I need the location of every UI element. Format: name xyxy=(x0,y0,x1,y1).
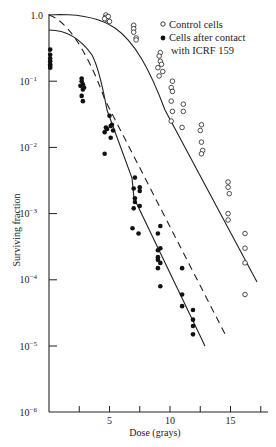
filled-circle-point xyxy=(156,231,161,236)
open-circle-point xyxy=(157,54,162,59)
icrf-fit-line xyxy=(49,30,205,346)
filled-circle-point xyxy=(137,189,142,194)
open-circle-point xyxy=(170,89,175,94)
open-circle-point xyxy=(198,128,203,133)
filled-circle-point xyxy=(191,317,196,322)
filled-circle-point xyxy=(156,248,161,253)
open-circle-point xyxy=(169,119,174,124)
open-circle-point xyxy=(181,102,186,107)
open-circle-point xyxy=(131,30,136,35)
x-axis-title: Dose (grays) xyxy=(129,427,180,439)
open-circle-point xyxy=(243,246,248,251)
y-tick-label: 10−3 xyxy=(20,207,38,219)
x-tick-label: 10 xyxy=(165,415,175,426)
open-circle-point xyxy=(227,191,232,196)
open-circle-point xyxy=(226,180,231,185)
y-tick-label: 10−6 xyxy=(20,406,38,418)
filled-circle-point xyxy=(81,99,86,104)
filled-circle-point xyxy=(158,284,163,289)
filled-circle-point xyxy=(107,114,112,119)
filled-circle-point xyxy=(191,324,196,329)
filled-circle-point xyxy=(137,204,142,209)
y-tick-label: 10−5 xyxy=(20,340,38,352)
filled-circle-point xyxy=(133,200,138,205)
open-circle-point xyxy=(134,38,139,43)
open-circle-point xyxy=(181,109,186,114)
y-tick-label: 10−1 xyxy=(20,75,38,87)
y-tick-label: 10−2 xyxy=(20,141,38,153)
x-tick-label: 15 xyxy=(226,415,236,426)
filled-circle-point xyxy=(131,186,136,191)
open-circle-point xyxy=(243,292,248,297)
reference-dashed-line xyxy=(49,15,225,334)
y-axis-title: Surviving fraction xyxy=(11,193,22,266)
open-circle-point xyxy=(169,99,174,104)
open-circle-point xyxy=(199,122,204,127)
legend-label-icrf: Cells after contact xyxy=(169,32,245,43)
filled-circle-point xyxy=(158,261,163,266)
legend-label-control: Control cells xyxy=(169,19,223,30)
filled-circle-point xyxy=(156,266,161,271)
filled-circle-point xyxy=(102,130,107,135)
filled-circle-point xyxy=(191,308,196,313)
open-circle-point xyxy=(170,109,175,114)
y-tick-label: 10−4 xyxy=(20,273,38,285)
open-circle-point xyxy=(107,19,112,24)
survival-chart: 1.010−110−210−310−410−510−6 51015 Surviv… xyxy=(0,0,276,447)
open-circle-point xyxy=(199,152,204,157)
open-circle-point xyxy=(243,261,248,266)
open-circle-point xyxy=(157,74,162,79)
filled-circle-point xyxy=(180,292,185,297)
filled-circle-point xyxy=(131,206,136,211)
legend-open-circle-icon xyxy=(161,22,165,26)
open-circle-point xyxy=(199,140,204,145)
open-circle-point xyxy=(160,69,165,74)
filled-circle-point xyxy=(180,304,185,309)
filled-circle-point xyxy=(136,231,141,236)
y-tick-label: 1.0 xyxy=(31,10,44,21)
filled-circle-point xyxy=(82,85,87,90)
open-circle-point xyxy=(159,62,164,67)
open-circle-point xyxy=(226,218,231,223)
filled-circle-point xyxy=(158,224,163,229)
open-circle-point xyxy=(243,231,248,236)
open-circle-point xyxy=(226,185,231,190)
filled-circle-point xyxy=(191,332,196,337)
legend: Control cells Cells after contact with I… xyxy=(161,19,246,56)
filled-circle-point xyxy=(111,128,116,133)
legend-label-icrf-line2: with ICRF 159 xyxy=(171,45,234,56)
filled-circle-point xyxy=(48,47,53,52)
open-circle-point xyxy=(180,125,185,130)
filled-circle-point xyxy=(180,266,185,271)
filled-circle-point xyxy=(102,152,107,157)
filled-circle-point xyxy=(108,135,113,140)
filled-circle-point xyxy=(130,226,135,231)
y-ticks: 1.010−110−210−310−410−510−6 xyxy=(20,10,57,418)
filled-circle-point xyxy=(79,94,84,99)
open-circle-point xyxy=(106,14,111,19)
filled-circle-point xyxy=(110,122,115,127)
filled-circle-point xyxy=(133,175,138,180)
fit-curves xyxy=(49,15,257,347)
filled-circle-point xyxy=(48,65,53,70)
x-tick-label: 5 xyxy=(107,415,112,426)
legend-filled-circle-icon xyxy=(161,36,166,41)
open-circle-point xyxy=(226,211,231,216)
open-circle-point xyxy=(170,79,175,84)
x-ticks: 51015 xyxy=(79,406,261,426)
